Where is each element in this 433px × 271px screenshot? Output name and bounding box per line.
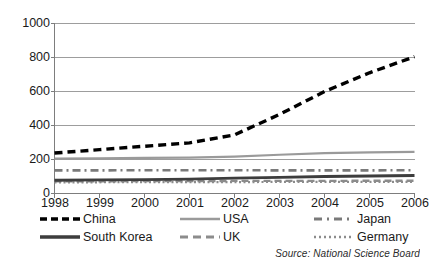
- legend-key-uk-icon: [178, 230, 222, 244]
- legend-key-germany-icon: [312, 230, 356, 244]
- legend-label-china: China: [82, 212, 116, 226]
- legend-item-japan[interactable]: Japan: [312, 211, 391, 227]
- legend: China USA Japan South Korea UK: [30, 211, 422, 247]
- legend-label-germany: Germany: [356, 230, 408, 244]
- source-note: Source: National Science Board: [275, 248, 420, 259]
- data-series-group: [55, 57, 415, 183]
- x-tick-label-2001: 2001: [167, 196, 213, 210]
- legend-key-south-korea-icon: [38, 230, 82, 244]
- x-tick-label-2002: 2002: [212, 196, 258, 210]
- y-axis: [51, 23, 55, 194]
- y-axis-tick-labels: 1000 800 600 400 200 0: [0, 0, 50, 200]
- y-tick-label-1000: 1000: [6, 17, 50, 29]
- gridlines: [55, 24, 415, 160]
- legend-key-usa-icon: [178, 212, 222, 226]
- series-line-china: [55, 57, 415, 153]
- x-tick-label-1998: 1998: [32, 196, 78, 210]
- legend-item-uk[interactable]: UK: [178, 229, 240, 245]
- legend-item-usa[interactable]: USA: [178, 211, 249, 227]
- series-line-south-korea: [55, 175, 415, 180]
- y-tick-label-800: 800: [6, 51, 50, 63]
- legend-item-germany[interactable]: Germany: [312, 229, 408, 245]
- x-axis-tick-labels: 1998 1999 2000 2001 2002 2003 2004 2005 …: [55, 196, 415, 212]
- legend-label-uk: UK: [222, 230, 240, 244]
- legend-item-china[interactable]: China: [38, 211, 116, 227]
- x-tick-label-2005: 2005: [347, 196, 393, 210]
- y-tick-label-600: 600: [6, 85, 50, 97]
- x-tick-label-2000: 2000: [122, 196, 168, 210]
- legend-key-japan-icon: [312, 212, 356, 226]
- legend-label-south-korea: South Korea: [82, 230, 153, 244]
- y-tick-label-400: 400: [6, 119, 50, 131]
- x-tick-label-2006: 2006: [392, 196, 433, 210]
- x-tick-label-2004: 2004: [302, 196, 348, 210]
- legend-item-south-korea[interactable]: South Korea: [38, 229, 153, 245]
- legend-label-usa: USA: [222, 212, 249, 226]
- series-line-germany: [55, 182, 415, 183]
- series-line-usa: [55, 152, 415, 159]
- legend-key-china-icon: [38, 212, 82, 226]
- legend-label-japan: Japan: [356, 212, 391, 226]
- x-tick-label-1999: 1999: [77, 196, 123, 210]
- y-tick-label-200: 200: [6, 153, 50, 165]
- x-tick-label-2003: 2003: [257, 196, 303, 210]
